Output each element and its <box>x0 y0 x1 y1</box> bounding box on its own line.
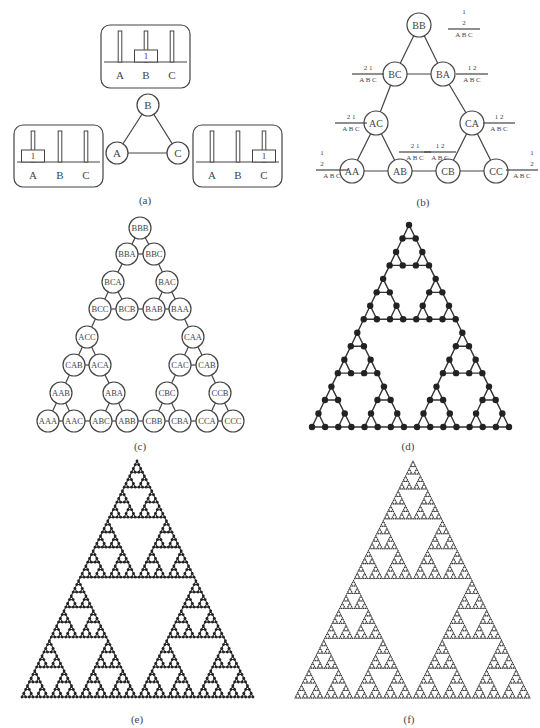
hanoi-graph-figure: ABC1ABC1ABC1BAC BBBCBAACCAAAABCBCC12A B … <box>0 0 540 728</box>
peg-letters: A B C <box>513 172 531 180</box>
peg-A <box>210 131 214 162</box>
state-node-label: B <box>144 99 151 111</box>
disk-number: 1 <box>530 149 534 157</box>
caption-e: (e) <box>131 713 144 726</box>
state-node-label: AAA <box>39 416 58 426</box>
graph-edges <box>22 461 253 697</box>
peg-label: C <box>82 169 89 181</box>
peg-annotation-CA: 1 2A B C <box>483 113 515 133</box>
peg-letters: A B C <box>455 31 473 39</box>
state-node-label: CBB <box>145 416 162 426</box>
state-node-label: CA <box>465 118 480 129</box>
peg-letters: A B C <box>490 125 508 133</box>
peg-letters: A B C <box>463 76 481 84</box>
state-node-label: BCB <box>118 304 135 314</box>
caption-f: (f) <box>404 713 415 726</box>
peg-label: B <box>234 169 241 181</box>
peg-A <box>118 31 122 62</box>
caption-a: (a) <box>139 194 152 207</box>
peg-annotation-CC: 12A B C <box>506 149 538 180</box>
peg-letters: A B C <box>342 125 360 133</box>
peg-label: A <box>116 69 124 81</box>
state-node-label: CCB <box>211 388 228 398</box>
peg-B <box>236 131 240 162</box>
state-node-label: ACC <box>78 332 96 342</box>
state-node-label: ABC <box>92 416 110 426</box>
disk-numbers: 1 2 <box>468 64 477 72</box>
peg-annotation-AC: 2 1A B C <box>335 113 367 133</box>
state-node-label: BBA <box>118 249 136 259</box>
peg-annotation-BA: 1 2A B C <box>456 64 488 84</box>
state-node-label: AC <box>369 118 383 129</box>
panel-c-three-disk-graph: BBBBBABBCBCABACBCCBCBBABBAAACCCAACABACAC… <box>37 217 244 432</box>
state-node-label: CB <box>441 166 455 177</box>
graph-edges <box>295 461 530 698</box>
tower-box-state-C: ABC1 <box>193 125 282 187</box>
peg-letters: A B C <box>431 154 449 162</box>
state-node-label: ABA <box>105 388 124 398</box>
state-node-label: BAC <box>158 277 176 287</box>
state-node-label: CC <box>489 166 503 177</box>
peg-C <box>170 31 174 62</box>
panel-a-tower-states: ABC1ABC1ABC1BAC <box>14 25 282 187</box>
state-node-label: CAA <box>184 332 203 342</box>
disk-numbers: 2 1 <box>411 142 420 150</box>
state-node-label: BBB <box>131 223 148 233</box>
state-node-label: BC <box>388 69 402 80</box>
disk-numbers: 1 2 <box>436 142 445 150</box>
peg-annotation-BC: 2 1A B C <box>352 64 384 84</box>
disk-label: 1 <box>144 51 149 61</box>
peg-B <box>58 131 62 162</box>
peg-letters: A B C <box>323 172 341 180</box>
state-node-label: CBA <box>171 416 189 426</box>
peg-label: A <box>208 169 216 181</box>
state-node-label: BAA <box>171 304 190 314</box>
state-node-label: BCC <box>91 304 108 314</box>
state-node-label: CCC <box>224 416 241 426</box>
state-node-label: A <box>113 147 121 159</box>
peg-label: C <box>260 169 267 181</box>
state-node-label: BBC <box>145 249 162 259</box>
disk-number: 1 <box>320 149 324 157</box>
state-node-label: ACA <box>91 360 110 370</box>
peg-letters: A B C <box>359 76 377 84</box>
graph-vertices <box>21 460 255 699</box>
tower-box-state-B: ABC1 <box>101 25 190 88</box>
state-node-label: CBC <box>158 388 175 398</box>
state-node-label: BA <box>436 69 451 80</box>
state-node-label: CCA <box>198 416 216 426</box>
state-node-label: ABB <box>118 416 136 426</box>
state-node-label: AB <box>393 166 407 177</box>
panel-d-level4-graph <box>309 222 512 430</box>
state-node-label: AAB <box>52 388 70 398</box>
caption-d: (d) <box>402 440 415 453</box>
state-node-label: CAB <box>198 360 216 370</box>
peg-label: A <box>29 169 37 181</box>
disk-number: 2 <box>530 160 534 168</box>
disk-number: 1 <box>462 8 466 16</box>
state-node-label: BAB <box>145 304 163 314</box>
state-node-label: BB <box>412 20 426 31</box>
state-node-label: CAC <box>171 360 189 370</box>
state-node-label: BCA <box>104 277 122 287</box>
disk-numbers: 2 1 <box>347 113 356 121</box>
disk-number: 2 <box>320 160 324 168</box>
peg-letters: A B C <box>406 154 424 162</box>
peg-label: B <box>142 69 149 81</box>
panel-b-two-disk-graph: BBBCBAACCAAAABCBCC12A B C2 1A B C1 2A B … <box>316 8 538 183</box>
panel-f-level7-graph <box>294 460 530 698</box>
peg-annotation-BB: 12A B C <box>448 8 480 39</box>
state-node-label: AAC <box>65 416 83 426</box>
disk-numbers: 1 2 <box>495 113 504 121</box>
peg-label: C <box>168 69 175 81</box>
peg-label: B <box>56 169 63 181</box>
state-node-label: C <box>174 147 181 159</box>
panel-e-level6-graph <box>21 460 255 699</box>
disk-label: 1 <box>31 151 36 161</box>
graph-edges <box>312 225 509 427</box>
caption-c: (c) <box>134 440 147 453</box>
disk-number: 2 <box>462 19 466 27</box>
graph-vertices <box>309 222 512 430</box>
tower-box-state-A: ABC1 <box>14 125 103 187</box>
state-node-label: AA <box>345 166 360 177</box>
